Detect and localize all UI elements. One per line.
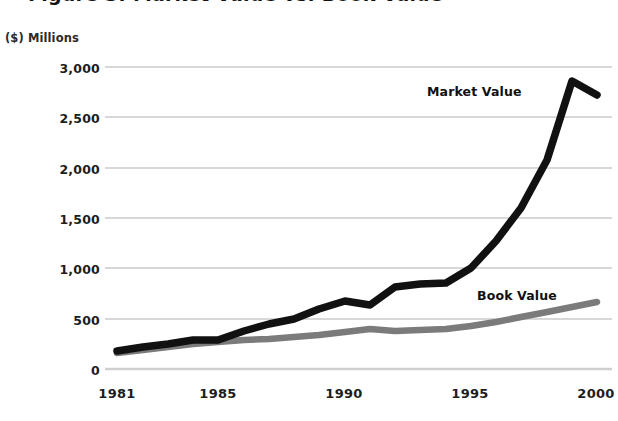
x-tick-1981: 1981 [98,386,135,401]
x-tick-1985: 1985 [199,386,236,401]
x-tick-1995: 1995 [451,386,488,401]
x-tick-1990: 1990 [325,386,362,401]
y-tick-0: 0 [48,363,100,378]
book-value-line [117,302,597,353]
y-axis-tick-labels: 3,000 2,500 2,000 1,500 1,000 500 0 [40,0,100,421]
y-tick-1000: 1,000 [48,262,100,277]
y-tick-500: 500 [48,313,100,328]
market-value-line [117,81,597,351]
y-tick-3000: 3,000 [48,61,100,76]
y-tick-1500: 1,500 [48,212,100,227]
x-tick-2000: 2000 [577,386,614,401]
y-tick-2000: 2,000 [48,162,100,177]
series-label-market-value: Market Value [427,84,522,99]
chart-svg [105,60,612,376]
plot-area [105,60,612,376]
series-label-book-value: Book Value [477,288,557,303]
gridlines [105,67,612,369]
y-tick-2500: 2,500 [48,111,100,126]
x-axis-tick-labels: 1981 1985 1990 1995 2000 [0,386,618,408]
chart-container: Figure 3: Market Value vs. Book Value ($… [0,0,618,421]
